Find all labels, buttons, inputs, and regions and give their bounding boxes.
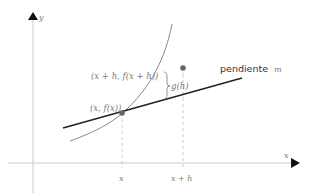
point-x-label: (x, f(x)): [90, 103, 121, 113]
tick-label-x: x: [119, 174, 124, 183]
slope-label: pendiente m: [220, 63, 282, 74]
point-x-plus-h: [180, 65, 186, 71]
y-axis-arrow-icon: [28, 12, 38, 20]
y-axis-label: y: [38, 13, 44, 22]
slope-label-var: m: [274, 65, 282, 74]
tick-label-x-plus-h: x + h: [171, 174, 192, 183]
function-curve: [70, 24, 172, 141]
point-x-plus-h-label: (x + h, f(x + h)): [91, 71, 158, 81]
gap-label: g(h): [171, 81, 189, 91]
gap-brace: [164, 72, 170, 99]
derivative-diagram: y x (x + h, f(x + h)) (x, f(x)) g(h) pen…: [0, 0, 309, 193]
x-axis-arrow-icon: [291, 158, 300, 168]
x-axis-label: x: [284, 151, 289, 160]
slope-label-text: pendiente: [220, 63, 268, 74]
